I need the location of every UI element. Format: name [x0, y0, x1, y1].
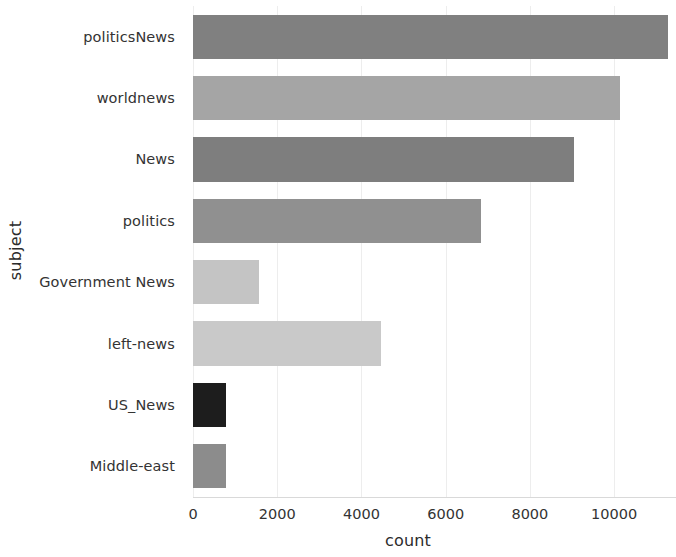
y-tick-label: US_News	[108, 397, 175, 413]
x-axis-tick-labels: 0200040006000800010000	[0, 506, 676, 528]
bar	[193, 199, 481, 243]
y-tick-label: Government News	[39, 274, 175, 290]
bar	[193, 76, 620, 120]
plot-area	[193, 6, 676, 497]
y-tick-label: Middle-east	[90, 458, 175, 474]
bar-series	[193, 6, 676, 497]
bar	[193, 383, 226, 427]
x-tick-label: 6000	[427, 506, 464, 522]
x-tick-label: 0	[188, 506, 197, 522]
y-tick-label: worldnews	[97, 90, 175, 106]
y-axis-tick-labels: politicsNewsworldnewsNewspoliticsGovernm…	[0, 6, 186, 497]
bar	[193, 15, 668, 59]
x-tick-label: 2000	[259, 506, 296, 522]
x-tick-label: 8000	[511, 506, 548, 522]
y-tick-label: politicsNews	[83, 29, 175, 45]
bar	[193, 321, 381, 365]
bar	[193, 260, 259, 304]
bar	[193, 444, 226, 488]
x-axis-line	[193, 497, 676, 498]
x-axis-title: count	[193, 531, 623, 550]
bar	[193, 137, 574, 181]
x-tick-label: 4000	[343, 506, 380, 522]
bar-chart: subject politicsNewsworldnewsNewspolitic…	[0, 0, 676, 557]
y-tick-label: politics	[123, 213, 175, 229]
x-tick-label: 10000	[591, 506, 637, 522]
y-tick-label: left-news	[108, 336, 175, 352]
y-tick-label: News	[135, 151, 175, 167]
